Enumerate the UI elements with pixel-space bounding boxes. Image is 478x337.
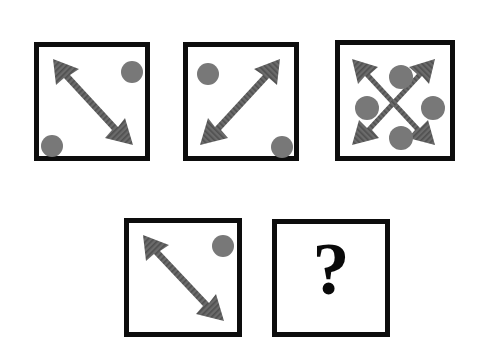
dot-right xyxy=(421,96,445,120)
panel-5-answer[interactable]: ? xyxy=(272,219,390,337)
dot-bottom-right xyxy=(271,136,293,158)
dot-bottom-left xyxy=(41,135,63,157)
panel-4[interactable] xyxy=(124,218,242,337)
panel-3[interactable] xyxy=(335,40,455,161)
panel-5-content: ? xyxy=(277,224,385,332)
panel-1-content xyxy=(39,47,145,156)
dot-left xyxy=(355,96,379,120)
dot-top-right xyxy=(212,235,234,257)
panel-2-content xyxy=(188,47,294,156)
dot-top-left xyxy=(197,63,219,85)
dot-top-right xyxy=(121,61,143,83)
panel-2[interactable] xyxy=(183,42,299,161)
dot-bottom xyxy=(389,126,413,150)
panel-1[interactable] xyxy=(34,42,150,161)
dot-top xyxy=(389,65,413,89)
panel-4-content xyxy=(129,223,237,332)
question-mark-glyph: ? xyxy=(277,232,385,306)
panel-3-content xyxy=(340,45,450,156)
